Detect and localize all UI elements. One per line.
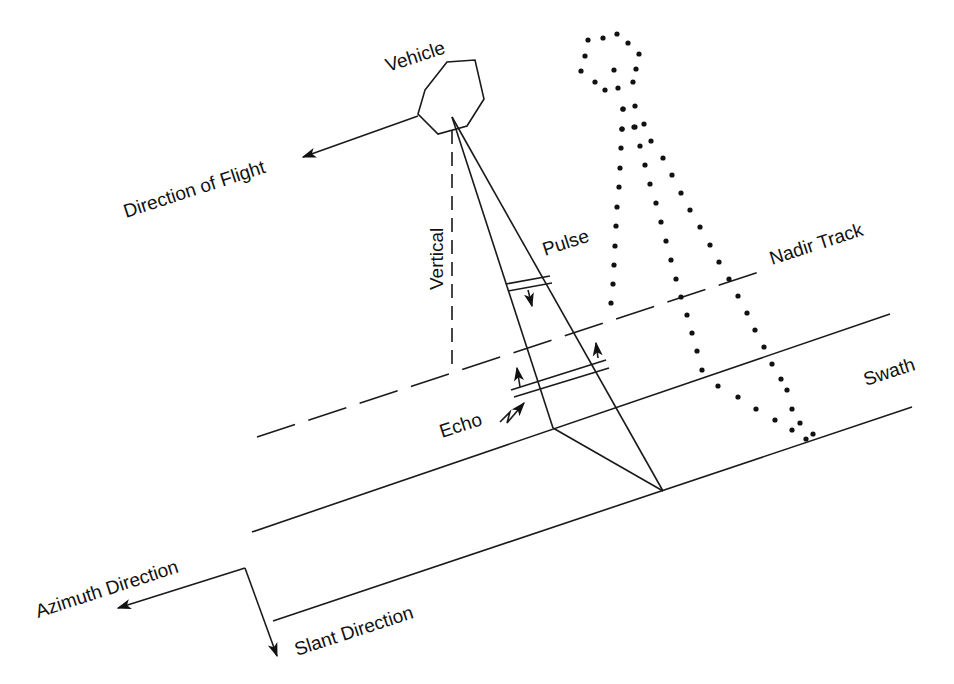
swath-far-edge [273, 407, 912, 621]
vertical-label: Vertical [426, 228, 447, 290]
sar-geometry-diagram: Vehicle Direction of Flight Vertical Pul… [0, 0, 954, 684]
nadir-track-label: Nadir Track [767, 219, 866, 269]
echo-marker [500, 343, 609, 423]
vehicle-label: Vehicle [383, 37, 448, 76]
vehicle-hexagon-icon [418, 60, 484, 134]
slant-direction-label: Slant Direction [292, 602, 416, 660]
pulse-label: Pulse [540, 225, 592, 260]
direction-of-flight-arrow [303, 116, 418, 157]
swath-near-edge [252, 314, 890, 532]
echo-label: Echo [437, 408, 485, 441]
swath-label: Swath [861, 354, 918, 390]
nadir-track-line [257, 270, 765, 437]
azimuth-direction-label: Azimuth Direction [33, 556, 181, 622]
radar-beam [452, 117, 663, 491]
direction-of-flight-label: Direction of Flight [121, 156, 269, 222]
